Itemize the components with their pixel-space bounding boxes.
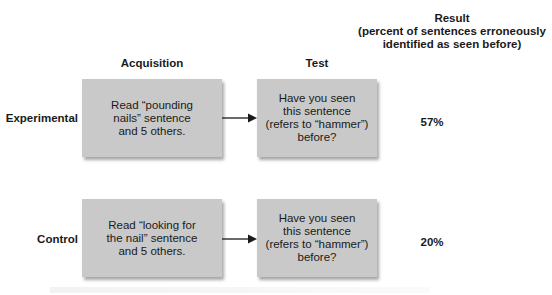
arrow-right-icon [222, 113, 257, 123]
control-test-box: Have you seen this sentence (refers to “… [257, 199, 377, 277]
control-acquisition-box: Read “looking for the nail” sentence and… [82, 199, 222, 277]
box-line: the nail” sentence [107, 232, 198, 245]
experimental-test-box: Have you seen this sentence (refers to “… [257, 79, 377, 157]
control-result: 20% [402, 236, 462, 248]
box-line: before? [266, 251, 369, 264]
row-label-experimental: Experimental [0, 112, 78, 124]
box-line: Have you seen [266, 92, 369, 105]
box-line: Have you seen [266, 212, 369, 225]
result-header-title: Result [352, 12, 552, 25]
box-line: nails” sentence [111, 112, 193, 125]
result-header-subtitle-2: identified as seen before) [352, 38, 552, 51]
experimental-acquisition-box: Read “pounding nails” sentence and 5 oth… [82, 79, 222, 157]
arrow-right-icon [222, 234, 257, 244]
box-line: this sentence [266, 105, 369, 118]
caption-bleed-through [50, 287, 430, 293]
result-header: Result (percent of sentences erroneously… [352, 12, 552, 51]
box-line: before? [266, 131, 369, 144]
box-line: (refers to “hammer”) [266, 238, 369, 251]
test-header: Test [257, 57, 377, 69]
box-line: Read “looking for [107, 219, 198, 232]
box-line: Read “pounding [111, 99, 193, 112]
box-line: and 5 others. [107, 245, 198, 258]
box-line: and 5 others. [111, 125, 193, 138]
row-label-control: Control [0, 233, 78, 245]
acquisition-header: Acquisition [82, 57, 222, 69]
box-line: (refers to “hammer”) [266, 118, 369, 131]
box-line: this sentence [266, 225, 369, 238]
result-header-subtitle-1: (percent of sentences erroneously [352, 25, 552, 38]
experimental-result: 57% [402, 116, 462, 128]
